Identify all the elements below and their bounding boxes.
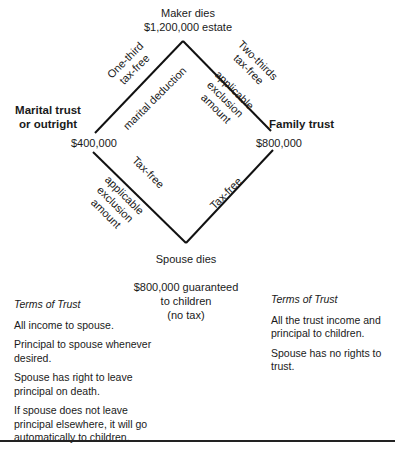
terms-left-item: If spouse does not leave principal elsew…	[14, 404, 164, 445]
guaranteed-line: $800,000 guaranteed	[121, 280, 251, 294]
terms-left-item: Principal to spouse whenever desired.	[14, 338, 154, 365]
terms-left-heading: Terms of Trust	[14, 298, 164, 312]
spouse-dies-label: Spouse dies	[136, 252, 236, 266]
terms-right: Terms of Trust All the trust income and …	[271, 293, 391, 380]
estate-amount: $1,200,000 estate	[133, 20, 243, 34]
bottom-rule	[0, 440, 395, 442]
maker-dies-label: Maker dies	[133, 6, 243, 20]
marital-trust-line2: or outright	[3, 117, 93, 131]
terms-left-item: All income to spouse.	[14, 319, 164, 333]
terms-left-item: Spouse has right to leave principal on d…	[14, 371, 134, 398]
marital-trust-line1: Marital trust	[3, 103, 93, 117]
marital-trust-title: Marital trust or outright	[3, 103, 93, 131]
terms-left: Terms of Trust All income to spouse. Pri…	[14, 298, 164, 451]
marital-trust-amount: $400,000	[71, 136, 117, 150]
terms-right-item: All the trust income and principal to ch…	[271, 314, 391, 341]
family-trust-amount: $800,000	[256, 136, 302, 150]
terms-right-item: Spouse has no rights to trust.	[271, 347, 391, 374]
top-node: Maker dies $1,200,000 estate	[133, 6, 243, 34]
terms-right-heading: Terms of Trust	[271, 293, 391, 307]
family-trust-title: Family trust	[269, 117, 334, 131]
